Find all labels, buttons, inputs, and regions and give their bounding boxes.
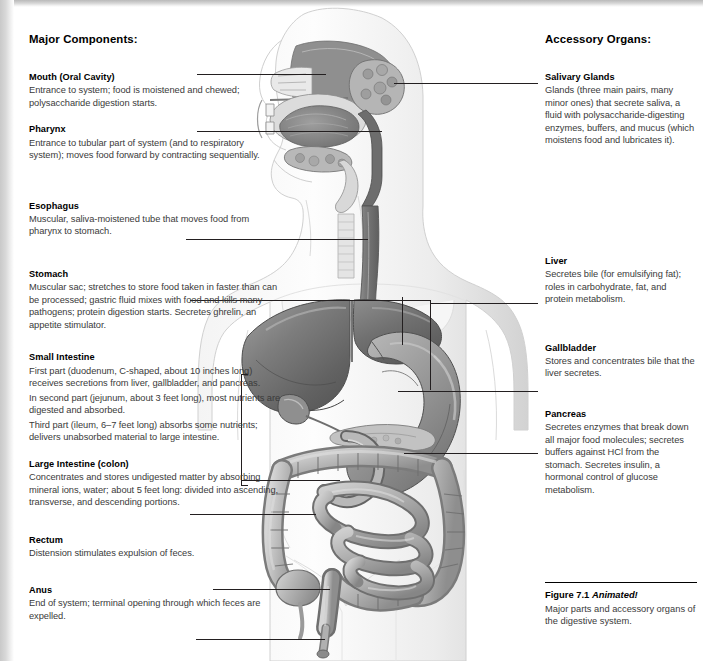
entry-small-intestine-title: Small Intestine (29, 351, 281, 363)
entry-liver-text: Secretes bile (for emulsifying fat); rol… (545, 268, 697, 306)
entry-mouth: Mouth (Oral Cavity) Entrance to system; … (29, 71, 281, 109)
accessory-organs-column: Accessory Organs: Salivary Glands Glands… (545, 33, 697, 510)
entry-large-intestine: Large Intestine (colon) Concentrates and… (29, 458, 281, 509)
entry-rectum-text: Distension stimulates expulsion of feces… (29, 547, 281, 560)
entry-gallbladder-text: Stores and concentrates bile that the li… (545, 355, 697, 380)
entry-pharynx-text: Entrance to tubular part of system (and … (29, 137, 281, 162)
entry-anus-text: End of system; terminal opening through … (29, 597, 281, 622)
entry-pharynx: Pharynx Entrance to tubular part of syst… (29, 123, 281, 161)
entry-esophagus-text: Muscular, saliva-moistened tube that mov… (29, 213, 281, 238)
entry-small-intestine-text-1: First part (duodenum, C-shaped, about 10… (29, 365, 281, 390)
entry-salivary-glands-text: Glands (three main pairs, many minor one… (545, 84, 697, 147)
caption-rule (545, 582, 697, 583)
entry-rectum: Rectum Distension stimulates expulsion o… (29, 534, 281, 560)
entry-large-intestine-text: Concentrates and stores undigested matte… (29, 471, 281, 509)
entry-mouth-text: Entrance to system; food is moistened an… (29, 84, 281, 109)
entry-stomach: Stomach Muscular sac; stretches to store… (29, 268, 281, 331)
entry-salivary-glands-title: Salivary Glands (545, 71, 697, 83)
figure-number: Figure 7.1 (545, 589, 589, 600)
entry-esophagus-title: Esophagus (29, 200, 281, 212)
figure-animated-tag: Animated! (592, 589, 638, 600)
entry-liver: Liver Secretes bile (for emulsifying fat… (545, 255, 697, 306)
major-components-heading: Major Components: (29, 33, 281, 47)
page-edge-shadow-left (0, 0, 14, 661)
entry-esophagus: Esophagus Muscular, saliva-moistened tub… (29, 200, 281, 238)
entry-stomach-text: Muscular sac; stretches to store food ta… (29, 281, 281, 331)
entry-pharynx-title: Pharynx (29, 123, 281, 135)
figure-caption: Figure 7.1 Animated! Major parts and acc… (545, 589, 697, 628)
entry-small-intestine-text-2: In second part (jejunum, about 3 feet lo… (29, 392, 281, 417)
figure-caption-text: Major parts and accessory organs of the … (545, 603, 697, 628)
entry-small-intestine-text-3: Third part (ileum, 6–7 feet long) absorb… (29, 419, 281, 444)
entry-pancreas-title: Pancreas (545, 408, 697, 420)
figure-page: Major Components: Mouth (Oral Cavity) En… (0, 0, 703, 661)
entry-pancreas-text: Secretes enzymes that break down all maj… (545, 421, 697, 496)
entry-salivary-glands: Salivary Glands Glands (three main pairs… (545, 71, 697, 147)
entry-gallbladder-title: Gallbladder (545, 342, 697, 354)
entry-rectum-title: Rectum (29, 534, 281, 546)
major-components-column: Major Components: Mouth (Oral Cavity) En… (29, 33, 281, 636)
entry-anus-title: Anus (29, 584, 281, 596)
entry-mouth-title: Mouth (Oral Cavity) (29, 71, 281, 83)
entry-small-intestine: Small Intestine First part (duodenum, C-… (29, 351, 281, 443)
entry-anus: Anus End of system; terminal opening thr… (29, 584, 281, 622)
entry-gallbladder: Gallbladder Stores and concentrates bile… (545, 342, 697, 380)
accessory-organs-heading: Accessory Organs: (545, 33, 697, 47)
figure-caption-title: Figure 7.1 Animated! (545, 589, 697, 602)
entry-stomach-title: Stomach (29, 268, 281, 280)
entry-pancreas: Pancreas Secretes enzymes that break dow… (545, 408, 697, 496)
entry-large-intestine-title: Large Intestine (colon) (29, 458, 281, 470)
entry-liver-title: Liver (545, 255, 697, 267)
